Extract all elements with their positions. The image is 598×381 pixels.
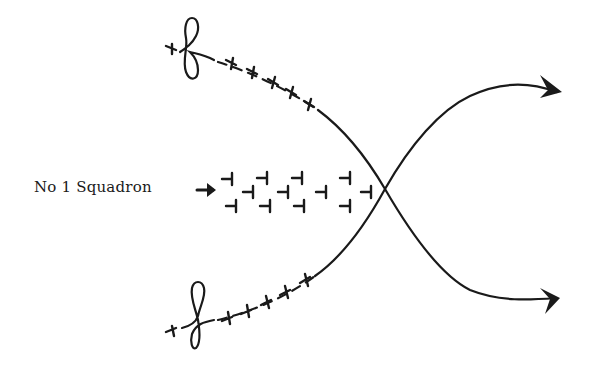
aircraft-icon	[316, 186, 326, 198]
aircraft-icon	[243, 186, 253, 198]
lower-flight-path	[182, 75, 562, 348]
upper-loop	[180, 18, 214, 79]
aircraft-icon	[241, 305, 251, 317]
aircraft-icon	[166, 326, 176, 336]
aircraft-icon	[222, 173, 232, 185]
aircraft-icon	[166, 44, 176, 54]
arrowhead-upper-icon	[540, 75, 562, 98]
aircraft-icon	[340, 172, 350, 184]
aircraft-icon	[294, 200, 304, 212]
lower-loop	[182, 282, 214, 348]
aircraft-icon	[261, 296, 271, 308]
aircraft-icon	[260, 200, 270, 212]
aircraft-icon	[278, 186, 288, 198]
squadron-formation	[222, 172, 371, 212]
aircraft-icon	[257, 172, 267, 184]
aircraft-icon	[340, 200, 350, 212]
aircraft-icon	[304, 99, 314, 110]
diagram-canvas	[0, 0, 598, 381]
arrowhead-lower-icon	[540, 288, 560, 314]
aircraft-icon	[292, 172, 302, 184]
tactical-diagram: No 1 Squadron	[0, 0, 598, 381]
upper-flight-path	[180, 18, 560, 314]
aircraft-icon	[226, 200, 236, 212]
right-arrow-icon	[197, 183, 216, 197]
aircraft-icon	[361, 186, 371, 198]
